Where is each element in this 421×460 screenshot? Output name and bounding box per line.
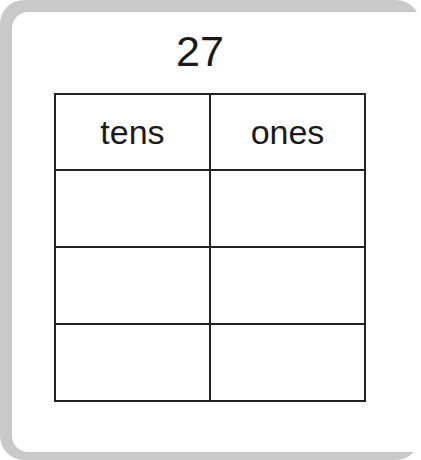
target-number: 27 (0, 27, 400, 75)
header-ones: ones (210, 94, 365, 170)
table-row (55, 170, 365, 247)
cell-ones[interactable] (210, 247, 365, 324)
place-value-table: tens ones (54, 93, 366, 402)
header-row: tens ones (55, 94, 365, 170)
table-row (55, 324, 365, 401)
cell-tens[interactable] (55, 170, 210, 247)
cell-tens[interactable] (55, 324, 210, 401)
table-row (55, 247, 365, 324)
cell-ones[interactable] (210, 170, 365, 247)
cell-ones[interactable] (210, 324, 365, 401)
header-tens: tens (55, 94, 210, 170)
cell-tens[interactable] (55, 247, 210, 324)
